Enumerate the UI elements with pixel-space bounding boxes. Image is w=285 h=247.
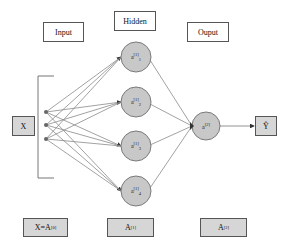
output-yhat-label: Ŷ (263, 122, 269, 131)
input-node-3 (44, 137, 48, 141)
hidden-node-1-label: a[1]1 (131, 52, 141, 62)
output-node-label: a[2] (202, 122, 210, 130)
hidden-header-label: Hidden (123, 17, 147, 26)
layer2-label-box: A[2] (200, 218, 247, 237)
hidden-header: Hidden (114, 11, 156, 31)
hidden-node-2-label: a[1]2 (131, 97, 141, 107)
input-node-1 (44, 110, 48, 114)
input-x-box: X (12, 116, 35, 136)
output-header: Ouput (187, 22, 229, 42)
hidden-node-4-label: a[1]4 (131, 186, 141, 196)
layer1-label-box: A[1] (107, 218, 154, 237)
input-header: Input (43, 22, 84, 42)
input-x-label: X (21, 122, 27, 131)
layer0-label-box: X=A[0] (23, 218, 68, 237)
output-header-label: Ouput (198, 28, 218, 37)
hidden-node-3-label: a[1]3 (131, 141, 141, 151)
output-yhat-box: Ŷ (255, 116, 277, 136)
input-header-label: Input (55, 28, 72, 37)
input-node-2 (44, 123, 48, 127)
